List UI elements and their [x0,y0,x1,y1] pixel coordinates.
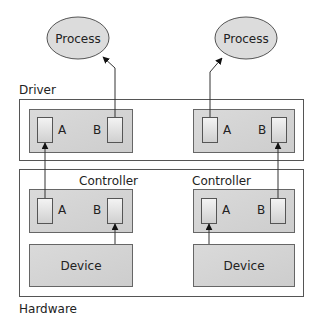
port-b-label: B [258,123,266,137]
port-a-label: A [223,123,232,137]
port-b [272,118,287,143]
port-a [38,118,53,143]
port-a-label: A [58,123,67,137]
port-b-label: B [93,203,101,217]
device-right: Device [194,245,295,287]
port-a [202,199,217,224]
port-a-label: A [222,203,231,217]
device-label: Device [60,259,101,273]
port-b [108,199,123,224]
port-b [271,199,286,224]
driver-hardware-diagram: Process Process Driver A B A B Hardware … [0,0,318,321]
device-label: Device [223,259,264,273]
hardware-layer-label: Hardware [19,302,77,316]
controller-label: Controller [192,174,251,188]
driver-layer-label: Driver [19,83,56,97]
port-a [38,199,53,224]
process-node-right: Process [215,17,277,59]
port-b-label: B [93,123,101,137]
process-node-left: Process [47,17,109,59]
controller-label: Controller [79,174,138,188]
port-b-label: B [257,203,265,217]
driver-right: A B [194,110,295,153]
port-b [108,118,123,143]
port-a-label: A [58,203,67,217]
process-label: Process [223,32,269,46]
device-left: Device [30,245,133,287]
port-a [203,118,218,143]
process-label: Process [55,32,101,46]
